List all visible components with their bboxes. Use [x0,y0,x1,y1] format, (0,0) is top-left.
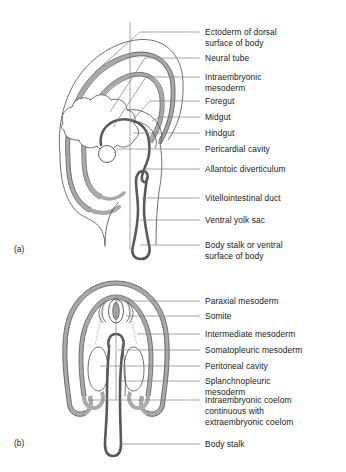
label-midgut: Midgut [205,112,231,123]
label-foregut: Foregut [205,96,234,107]
label-somatopleuric-mesoderm: Somatopleuric mesoderm [205,345,302,356]
label-ventral-yolk-sac: Ventral yolk sac [205,215,265,226]
intermediate-mesoderm-guide-right [128,306,137,345]
panel-letter-a: (a) [14,244,24,254]
panel-letter-b: (b) [14,438,24,448]
label-body-stalk: Body stalk [205,439,244,450]
b-gut-tube [105,334,124,456]
label-intraembryonic-mesoderm: Intraembryonic mesoderm [205,72,262,94]
mesoderm-band-ventral [84,158,124,199]
coelom-cavity-left [88,347,108,391]
transverse-embryo-drawing [63,281,200,456]
panel-a-drawing [0,0,346,472]
leader-foregut [131,101,200,122]
embryology-figure: Ectoderm of dorsal surface of body Neura… [0,0,346,472]
label-hindgut: Hindgut [205,128,234,139]
label-peritoneal-cavity: Peritoneal cavity [205,361,268,372]
coelom-cavity-right [124,347,144,391]
ectoderm-band-ventral [68,158,119,213]
pericardial-cavity-circle [99,146,116,163]
label-ectoderm-of-dorsal-surface: Ectoderm of dorsal surface of body [205,27,277,49]
label-neural-tube: Neural tube [205,53,249,64]
body-stalk-outline-right [156,143,162,243]
label-body-stalk-or-ventral-surface: Body stalk or ventral surface of body [205,240,283,262]
label-vitellointestinal-duct: Vitellointestinal duct [205,193,281,204]
label-intraembryonic-coelom: Intraembryonic coelom continuous with ex… [205,395,293,429]
label-paraxial-mesoderm: Paraxial mesoderm [205,296,279,307]
label-allantoic-diverticulum: Allantoic diverticulum [205,164,286,175]
label-intermediate-mesoderm: Intermediate mesoderm [205,329,295,340]
label-somite: Somite [205,311,232,322]
label-pericardial-cavity: Pericardial cavity [205,144,270,155]
intermediate-mesoderm-guide-left [95,306,104,345]
sagittal-embryo-drawing [59,22,200,259]
